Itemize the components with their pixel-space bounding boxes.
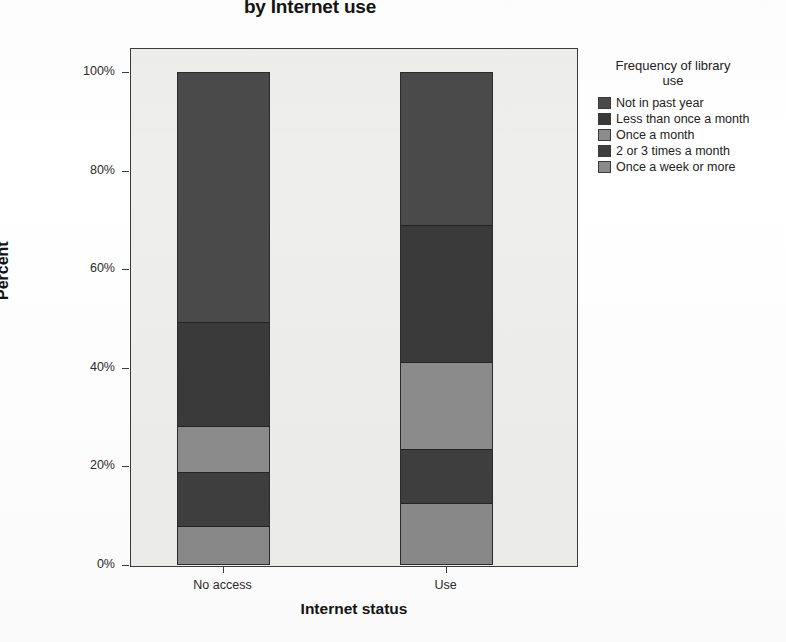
x-tick-label: No access [143, 578, 303, 592]
y-tick-mark [122, 565, 129, 566]
legend: Frequency of library use Not in past yea… [598, 58, 784, 175]
legend-item-label: Less than once a month [616, 112, 749, 126]
y-tick-mark [122, 171, 129, 172]
legend-item[interactable]: Once a week or more [598, 159, 784, 174]
x-tick-label: Use [366, 578, 526, 592]
chart-title: Frequency of library use by Internet use… [0, 0, 620, 18]
legend-swatch [598, 97, 611, 109]
chart-title-line-2: by Internet use [0, 0, 620, 18]
legend-swatch [598, 113, 611, 125]
legend-title-line-2: use [598, 73, 748, 88]
y-tick-label: 0% [55, 557, 115, 571]
legend-item[interactable]: 2 or 3 times a month [598, 143, 784, 158]
bar-segment[interactable] [178, 323, 269, 426]
x-axis-label: Internet status [130, 600, 578, 618]
bar-segment[interactable] [401, 363, 492, 450]
legend-item[interactable]: Once a month [598, 127, 784, 142]
y-tick-label: 60% [55, 261, 115, 275]
legend-swatch [598, 129, 611, 141]
plot-inner [131, 72, 578, 565]
bar-segment[interactable] [178, 427, 269, 474]
bar-segment[interactable] [401, 450, 492, 505]
y-tick-mark [122, 466, 129, 467]
y-tick-mark [122, 72, 129, 73]
bar-use[interactable] [400, 72, 493, 565]
legend-item[interactable]: Not in past year [598, 95, 784, 110]
bar-segment[interactable] [401, 226, 492, 363]
x-tick-mark [223, 566, 224, 573]
legend-item[interactable]: Less than once a month [598, 111, 784, 126]
bar-segment[interactable] [178, 73, 269, 323]
legend-title-line-1: Frequency of library [598, 58, 748, 73]
bar-segment[interactable] [401, 504, 492, 564]
chart-page: Frequency of library use by Internet use… [0, 0, 786, 642]
y-tick-mark [122, 269, 129, 270]
y-axis-label: Percent [0, 241, 12, 300]
y-tick-mark [122, 368, 129, 369]
legend-title: Frequency of library use [598, 58, 748, 88]
x-tick-mark [446, 566, 447, 573]
y-tick-label: 20% [55, 458, 115, 472]
y-tick-label: 100% [55, 64, 115, 78]
legend-swatch [598, 145, 611, 157]
bar-no-access[interactable] [177, 72, 270, 565]
bar-segment[interactable] [178, 473, 269, 527]
legend-item-label: Once a month [616, 128, 695, 142]
bar-segment[interactable] [178, 527, 269, 564]
legend-items: Not in past yearLess than once a monthOn… [598, 95, 784, 174]
legend-item-label: Not in past year [616, 96, 704, 110]
y-tick-label: 40% [55, 360, 115, 374]
legend-item-label: Once a week or more [616, 160, 736, 174]
legend-item-label: 2 or 3 times a month [616, 144, 730, 158]
bar-segment[interactable] [401, 73, 492, 226]
legend-swatch [598, 161, 611, 173]
y-tick-label: 80% [55, 163, 115, 177]
